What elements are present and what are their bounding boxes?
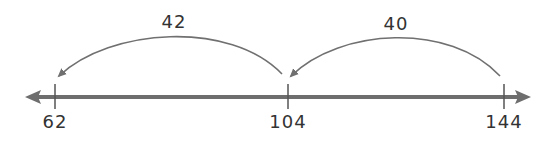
tick-labels: 62 104 144 [43, 111, 523, 132]
tick-label-62: 62 [43, 111, 68, 132]
jump-arcs [59, 37, 500, 76]
jump-arc-144-to-104 [291, 38, 500, 76]
jump-label-42: 42 [162, 11, 187, 32]
jump-arc-104-to-62 [59, 37, 282, 76]
jump-labels: 42 40 [162, 11, 409, 34]
number-line-diagram: 62 104 144 42 40 [0, 0, 551, 146]
jump-label-40: 40 [384, 13, 409, 34]
tick-label-144: 144 [485, 111, 522, 132]
number-line [25, 90, 531, 104]
tick-label-104: 104 [269, 111, 306, 132]
